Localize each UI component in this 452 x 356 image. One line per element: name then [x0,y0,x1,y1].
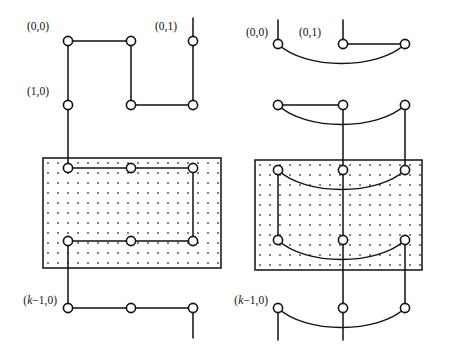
stipple-dot [67,202,69,204]
stipple-dot [369,164,371,166]
node-r0-c1[interactable] [126,36,135,45]
stipple-dot [329,174,331,176]
stipple-dot [207,172,209,174]
stipple-dot [147,242,149,244]
rnode-r2-c2[interactable] [400,165,409,174]
node-r0-c0[interactable] [63,36,72,45]
rnode-r2-c1[interactable] [338,165,347,174]
stipple-dot [299,254,301,256]
stipple-dot [279,214,281,216]
node-r3-c0[interactable] [63,236,72,245]
stipple-dot [137,192,139,194]
stipple-dot [157,252,159,254]
stipple-dot [299,214,301,216]
stipple-dot [147,202,149,204]
rnode-r0-c1[interactable] [338,39,347,48]
stipple-dot [409,254,411,256]
stipple-dot [167,242,169,244]
stipple-dot [187,192,189,194]
rnode-r1-c1[interactable] [338,100,347,109]
stipple-dot [399,224,401,226]
stipple-dot [359,234,361,236]
stipple-dot [77,252,79,254]
rnode-r0-c2[interactable] [400,39,409,48]
stipple-dot [147,222,149,224]
stipple-dot [197,232,199,234]
label-left-origin: (0,0) [27,20,49,33]
stipple-dot [399,264,401,266]
node-r4-c0[interactable] [63,303,72,312]
stipple-dot [117,222,119,224]
stipple-dot [217,212,219,214]
rnode-r3-c2[interactable] [400,235,409,244]
node-r2-c1[interactable] [126,163,135,172]
stipple-dot [359,264,361,266]
rnode-r3-c0[interactable] [273,235,282,244]
stipple-dot [57,182,59,184]
label-left-last-row: (k−1,0) [23,294,57,307]
stipple-dot [157,172,159,174]
node-r4-c1[interactable] [126,303,135,312]
node-r1-c2[interactable] [188,100,197,109]
node-r3-c1[interactable] [126,236,135,245]
stipple-dot [339,214,341,216]
stipple-dot [167,232,169,234]
rnode-r3-c1[interactable] [338,235,347,244]
node-r2-c0[interactable] [63,163,72,172]
rnode-r4-c2[interactable] [400,303,409,312]
stipple-dot [47,202,49,204]
stipple-dot [309,214,311,216]
node-r3-c2[interactable] [188,236,197,245]
rnode-r4-c1[interactable] [338,303,347,312]
stipple-dot [359,184,361,186]
stipple-dot [177,262,179,264]
stipple-dot [217,202,219,204]
stipple-dot [97,182,99,184]
stipple-dot [187,232,189,234]
stipple-dot [299,264,301,266]
stipple-dot [269,174,271,176]
stipple-dot [279,204,281,206]
stipple-dot [339,194,341,196]
stipple-dot [147,192,149,194]
node-r0-c2[interactable] [188,36,197,45]
stipple-dot [349,264,351,266]
stipple-dot [207,182,209,184]
stipple-dot [117,232,119,234]
stipple-dot [279,264,281,266]
stipple-dot [87,192,89,194]
stipple-dot [217,182,219,184]
stipple-dot [217,192,219,194]
stipple-dot [127,222,129,224]
rnode-r0-c0[interactable] [273,39,282,48]
stipple-dot [349,184,351,186]
node-r1-c1[interactable] [126,100,135,109]
stipple-dot [299,164,301,166]
stipple-dot [57,252,59,254]
rnode-r4-c0[interactable] [273,303,282,312]
stipple-dot [349,204,351,206]
stipple-dot [299,194,301,196]
stipple-dot [269,224,271,226]
stipple-dot [299,174,301,176]
node-r4-c2[interactable] [188,303,197,312]
stipple-dot [379,174,381,176]
rnode-r1-c2[interactable] [400,100,409,109]
stipple-dot [137,182,139,184]
stipple-dot [167,252,169,254]
stipple-dot [259,224,261,226]
node-r2-c2[interactable] [188,163,197,172]
stipple-dot [87,252,89,254]
node-r1-c0[interactable] [63,100,72,109]
stipple-dot [197,192,199,194]
stipple-dot [399,164,401,166]
rnode-r2-c0[interactable] [273,165,282,174]
stipple-dot [419,224,421,226]
rnode-r1-c0[interactable] [273,100,282,109]
stipple-dot [379,234,381,236]
stipple-dot [197,222,199,224]
label-left-second-column: (0,1) [155,20,177,33]
stipple-dot [359,204,361,206]
stipple-dot [137,232,139,234]
stipple-dot [77,182,79,184]
